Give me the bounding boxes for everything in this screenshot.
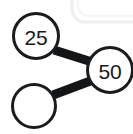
node-top-left-label: 25 [25,26,48,49]
edge-bottom-blank-to-50 [53,80,93,95]
card-corner-inner-edge [78,0,133,16]
node-top-left[interactable]: 25 [14,14,59,59]
diagram-canvas: 25 50 [0,0,133,134]
rounded-card-corner [72,0,133,22]
node-right-label: 50 [99,60,122,83]
number-bond-diagram: 25 50 [0,0,133,134]
node-bottom-left[interactable] [13,85,56,128]
card-corner-outer-edge [72,0,133,22]
edge-top-25-to-50 [54,50,92,62]
node-bottom-left-circle[interactable] [13,85,56,128]
node-right[interactable]: 50 [88,48,133,93]
